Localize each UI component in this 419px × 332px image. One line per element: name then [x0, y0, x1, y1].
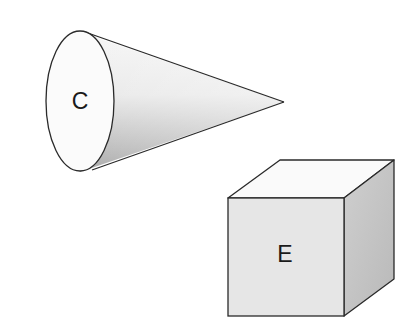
diagram-canvas: C E [0, 0, 419, 332]
cube-label: E [277, 241, 292, 267]
cube-shape: E [228, 160, 394, 316]
cone-label: C [72, 88, 89, 114]
cone-shape: C [46, 31, 284, 172]
